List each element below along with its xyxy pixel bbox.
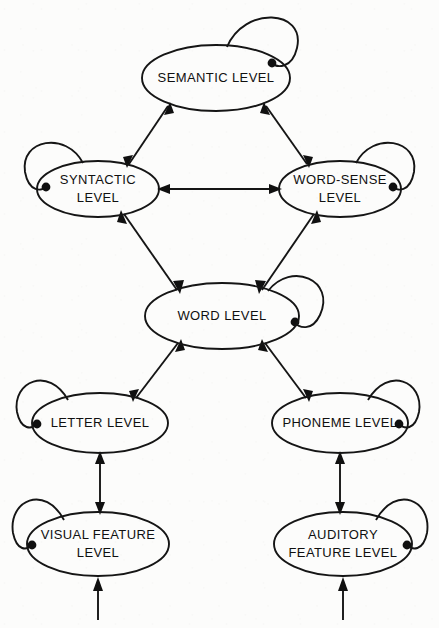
self-loop-dot-word-sense <box>389 183 398 192</box>
node-label-visual-line1: VISUAL FEATURE <box>41 527 156 542</box>
node-letter-level[interactable]: LETTER LEVEL <box>32 393 168 453</box>
self-loop-auditory-feature <box>376 500 427 550</box>
edge-external-input-visual <box>93 577 103 620</box>
edge-word-sense-word <box>255 210 321 294</box>
edge-letter-visual-feature <box>95 451 105 515</box>
node-label-syntactic-line1: SYNTACTIC <box>60 172 136 187</box>
self-loop-dot-syntactic <box>42 183 51 192</box>
node-label-auditory-line2: FEATURE LEVEL <box>289 545 398 560</box>
self-loop-dot-letter <box>33 420 42 429</box>
node-label-semantic: SEMANTIC LEVEL <box>158 70 275 85</box>
self-loop-word <box>268 276 323 327</box>
node-label-word: WORD LEVEL <box>177 308 266 323</box>
node-visual-feature-level[interactable]: VISUAL FEATURE LEVEL <box>27 512 169 576</box>
node-syntactic-level[interactable]: SYNTACTIC LEVEL <box>37 161 159 217</box>
node-phoneme-level[interactable]: PHONEME LEVEL <box>272 393 408 453</box>
node-label-syntactic-line2: LEVEL <box>77 190 119 205</box>
diagram-canvas: SEMANTIC LEVEL SYNTACTIC LEVEL WORD-SENS… <box>0 0 439 628</box>
self-loop-semantic <box>227 17 298 67</box>
edge-word-phoneme <box>258 339 313 402</box>
self-loop-dot-semantic <box>268 59 277 68</box>
edge-external-input-auditory <box>338 577 348 620</box>
node-word-level[interactable]: WORD LEVEL <box>145 283 299 349</box>
edge-semantic-word-sense <box>260 102 313 168</box>
node-label-word-sense-line2: LEVEL <box>319 190 361 205</box>
edge-syntactic-word <box>117 210 184 294</box>
node-layer: SEMANTIC LEVEL SYNTACTIC LEVEL WORD-SENS… <box>27 45 412 576</box>
edge-syntactic-word-sense <box>157 184 282 194</box>
self-loop-dot-visual-feature <box>28 541 37 550</box>
node-label-auditory-line1: AUDITORY <box>308 527 378 542</box>
node-semantic-level[interactable]: SEMANTIC LEVEL <box>142 45 290 111</box>
node-label-phoneme: PHONEME LEVEL <box>282 415 397 430</box>
node-label-visual-line2: LEVEL <box>77 545 119 560</box>
node-label-word-sense-line1: WORD-SENSE <box>293 172 387 187</box>
network-diagram: SEMANTIC LEVEL SYNTACTIC LEVEL WORD-SENS… <box>0 0 439 628</box>
self-loop-dot-auditory-feature <box>403 541 412 550</box>
edge-phoneme-auditory-feature <box>335 451 345 515</box>
node-word-sense-level[interactable]: WORD-SENSE LEVEL <box>279 161 401 217</box>
node-auditory-feature-level[interactable]: AUDITORY FEATURE LEVEL <box>274 512 412 576</box>
edge-semantic-syntactic <box>123 102 174 168</box>
node-label-letter: LETTER LEVEL <box>51 415 150 430</box>
edge-word-letter <box>129 339 185 402</box>
